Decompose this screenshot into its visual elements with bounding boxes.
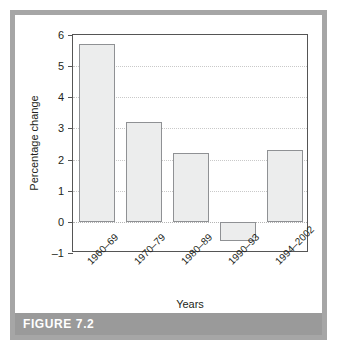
y-axis-tick-label: 3	[58, 122, 64, 134]
y-axis-tick-label: 2	[58, 154, 64, 166]
y-axis-title-text: Percentage change	[28, 95, 40, 190]
x-axis-tick-label: 1970–79	[132, 231, 167, 266]
zero-line	[73, 222, 307, 223]
y-axis-tick-label: 6	[58, 29, 64, 41]
y-axis-tick-label: 0	[58, 216, 64, 228]
figure-caption-text: FIGURE 7.2	[15, 317, 94, 331]
bar	[267, 150, 303, 222]
y-axis-tick	[68, 253, 73, 254]
y-axis-title: Percentage change	[27, 34, 41, 252]
x-axis-tick-label: 1980–89	[179, 231, 214, 266]
y-axis-tick	[68, 160, 73, 161]
y-axis-tick	[68, 66, 73, 67]
bar	[79, 44, 115, 222]
x-axis-title: Years	[72, 298, 308, 310]
bar-chart: Percentage change –101234561960–691970–7…	[15, 15, 322, 313]
y-axis-tick-label: 5	[58, 60, 64, 72]
bar	[126, 122, 162, 222]
y-axis-tick-label: –1	[52, 247, 64, 259]
y-axis-tick-label: 1	[58, 185, 64, 197]
y-axis-tick	[68, 128, 73, 129]
figure-frame: Percentage change –101234561960–691970–7…	[10, 10, 327, 340]
y-axis-tick	[68, 191, 73, 192]
y-axis-tick	[68, 97, 73, 98]
figure-caption-bar: FIGURE 7.2	[15, 313, 322, 335]
plot-area: –101234561960–691970–791980–891990–93199…	[72, 34, 308, 252]
x-axis-tick-label: 1994–2002	[273, 224, 316, 267]
y-axis-tick	[68, 35, 73, 36]
x-axis-tick-label: 1960–69	[85, 231, 120, 266]
y-axis-tick-label: 4	[58, 91, 64, 103]
y-axis-tick	[68, 222, 73, 223]
figure-plate: Percentage change –101234561960–691970–7…	[15, 15, 322, 313]
bar	[173, 153, 209, 222]
x-axis-title-text: Years	[176, 298, 204, 310]
